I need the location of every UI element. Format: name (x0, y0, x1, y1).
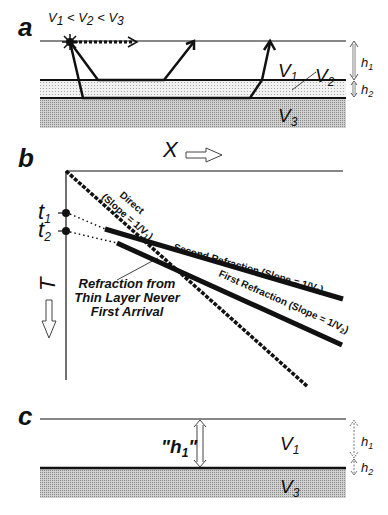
panel-c: c "h1" V1 V3 h1 h2 (18, 401, 373, 500)
label-v1-c: V1 (280, 433, 299, 457)
figure-canvas: a V1 < V2 < V3 V1 V2 V3 (0, 0, 388, 515)
panel-a-label: a (18, 12, 32, 42)
t2-extrapolation (70, 232, 117, 243)
t-direction-arrow-icon (42, 300, 56, 338)
x-axis-label: X (162, 137, 179, 162)
panel-c-label: c (18, 401, 33, 431)
h1-dashed-arrow-icon (350, 420, 358, 458)
label-v2: V2 (315, 65, 335, 89)
x-direction-arrow-icon (186, 148, 222, 162)
label-h2-c: h2 (361, 460, 373, 477)
h1-arrow-icon (350, 41, 358, 80)
velocity-condition: V1 < V2 < V3 (48, 10, 124, 28)
refraction-ray-v2 (70, 42, 193, 80)
panel-b: b X T t1 t2 Direct (Slope = 1/V1) Second… (18, 137, 350, 387)
apparent-h1-label: "h1" (161, 436, 198, 460)
h2-arrow-icon (351, 81, 357, 97)
layer-v3-c (40, 468, 346, 498)
panel-a: a V1 < V2 < V3 V1 V2 V3 (18, 10, 373, 129)
note-line-3: First Arrival (91, 304, 164, 319)
label-h1: h1 (361, 55, 373, 72)
label-h2: h2 (361, 82, 373, 99)
t1-marker (62, 209, 70, 217)
t1-extrapolation (70, 214, 105, 229)
h2-dashed-arrow-icon (351, 459, 357, 475)
label-h1-c: h1 (361, 434, 373, 451)
layer-v3 (40, 98, 346, 128)
label-v1: V1 (278, 60, 297, 84)
note-line-1: Refraction from (79, 276, 176, 291)
t-axis-label: T (35, 276, 60, 291)
t2-marker (62, 227, 70, 235)
note-line-2: Thin Layer Never (74, 290, 180, 305)
panel-b-label: b (18, 143, 34, 173)
layer-v2 (40, 80, 346, 98)
